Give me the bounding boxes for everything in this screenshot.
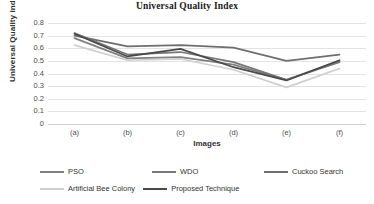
- x-tick-label: (e): [267, 129, 307, 137]
- x-tick-label: (d): [214, 129, 254, 137]
- legend-swatch: [40, 171, 64, 173]
- x-tick-label: (c): [161, 129, 201, 137]
- y-tick-label: 0.1: [14, 107, 44, 115]
- legend-label: Cuckoo Search: [292, 168, 343, 176]
- legend-swatch: [143, 188, 167, 190]
- legend-item[interactable]: PSO: [40, 168, 84, 176]
- gridline: [48, 124, 366, 125]
- chart-legend: PSOWDOCuckoo Search Artificial Bee Colon…: [40, 163, 374, 197]
- y-tick-label: 0: [14, 120, 44, 128]
- legend-row: PSOWDOCuckoo Search: [40, 163, 374, 180]
- legend-label: WDO: [180, 168, 198, 176]
- y-tick-label: 0.5: [14, 57, 44, 65]
- legend-item[interactable]: WDO: [152, 168, 198, 176]
- legend-swatch: [40, 188, 64, 190]
- chart-title: Universal Quality Index: [0, 1, 374, 11]
- y-tick-label: 0.6: [14, 44, 44, 52]
- series-lines: [48, 23, 366, 124]
- legend-item[interactable]: Artificial Bee Colony: [40, 185, 135, 193]
- chart-container: Universal Quality Index Universal Qualit…: [0, 0, 374, 204]
- legend-item[interactable]: Proposed Technique: [143, 185, 239, 193]
- y-tick-label: 0.7: [14, 32, 44, 40]
- y-tick-label: 0.2: [14, 95, 44, 103]
- legend-label: Artificial Bee Colony: [68, 185, 135, 193]
- legend-swatch: [152, 171, 176, 173]
- legend-swatch: [264, 171, 288, 173]
- legend-item[interactable]: Cuckoo Search: [264, 168, 343, 176]
- plot-area: 00.10.20.30.40.50.60.70.8 (a)(b)(c)(d)(e…: [48, 23, 366, 124]
- y-tick-label: 0.3: [14, 82, 44, 90]
- legend-label: Proposed Technique: [171, 185, 239, 193]
- x-tick-label: (a): [55, 129, 95, 137]
- y-tick-label: 0.8: [14, 19, 44, 27]
- legend-label: PSO: [68, 168, 84, 176]
- legend-row: Artificial Bee ColonyProposed Technique: [40, 180, 374, 197]
- x-tick-label: (f): [320, 129, 360, 137]
- x-tick-label: (b): [108, 129, 148, 137]
- y-tick-label: 0.4: [14, 70, 44, 78]
- x-axis-title: Images: [48, 139, 366, 148]
